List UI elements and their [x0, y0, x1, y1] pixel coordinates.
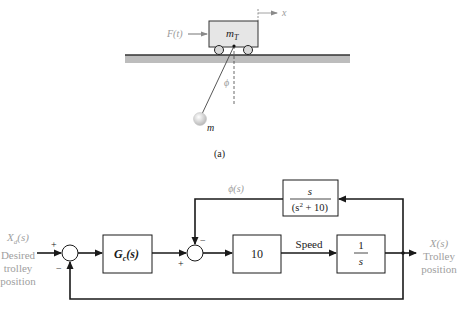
figure: x mT F(t) ϕ m (a)	[0, 0, 460, 315]
cart-pendulum-figure: x mT F(t) ϕ m (a)	[125, 7, 350, 160]
input-label: Xd(s) Desired trolley position	[0, 231, 36, 288]
pendulum-mass-label: m	[207, 122, 214, 133]
force-label: F(t)	[166, 28, 183, 40]
gain-label: 10	[251, 247, 263, 261]
input-desc-line2: trolley	[0, 262, 36, 275]
output-desc-line2: position	[418, 263, 460, 276]
phi-signal-label: ϕ(s)	[228, 183, 244, 195]
integrator-numerator: 1	[358, 239, 364, 251]
input-desc-line3: position	[0, 275, 36, 288]
caption-a: (a)	[214, 148, 225, 160]
cart-wheel-right	[244, 46, 253, 55]
pivot	[232, 44, 235, 47]
speed-label: Speed	[296, 238, 323, 250]
output-symbol: X(s)	[418, 237, 460, 250]
sum1-minus-sign: −	[56, 263, 62, 274]
controller-label: Gc(s)	[114, 247, 139, 263]
cart-wheel-left	[215, 46, 224, 55]
angle-label: ϕ	[224, 77, 229, 88]
feedback-denominator: (s2 + 10)	[292, 201, 329, 214]
input-symbol: Xd(s)	[0, 231, 36, 249]
x-axis-label: x	[281, 7, 287, 18]
output-desc-line1: Trolley	[418, 250, 460, 263]
summing-junction-1	[62, 245, 78, 261]
integrator-denominator: s	[359, 255, 363, 267]
sum2-plus-sign: +	[178, 258, 184, 269]
output-label: X(s) Trolley position	[418, 237, 460, 276]
feedback-numerator: s	[308, 185, 312, 197]
rail	[125, 55, 350, 63]
summing-junction-2	[187, 245, 203, 261]
sum2-minus-sign: −	[200, 235, 206, 246]
pendulum-mass	[194, 113, 207, 126]
sum1-plus-sign: +	[51, 239, 57, 250]
input-desc-line1: Desired	[0, 249, 36, 262]
